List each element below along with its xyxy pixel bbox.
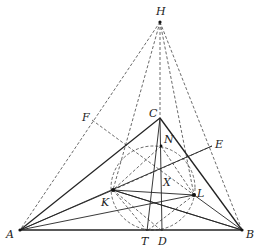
point-b — [240, 228, 243, 231]
dashed-lines-from-h — [20, 22, 242, 230]
point-l — [192, 193, 196, 197]
geometry-diagram: H C F N E X K L A T D B — [0, 0, 259, 252]
point-k — [111, 188, 115, 192]
label-b: B — [245, 228, 254, 241]
label-h: H — [155, 5, 166, 18]
point-h — [158, 20, 161, 23]
label-k: K — [100, 196, 110, 209]
label-t: T — [141, 235, 150, 248]
label-c: C — [149, 107, 158, 120]
point-a — [18, 228, 21, 231]
dashed-perpendiculars — [92, 120, 212, 231]
label-d: D — [157, 235, 167, 248]
label-n: N — [163, 133, 174, 146]
label-f: F — [81, 111, 90, 124]
label-e: E — [214, 138, 223, 151]
label-x: X — [162, 176, 172, 189]
label-a: A — [5, 228, 14, 241]
solid-lines — [20, 118, 242, 231]
label-l: L — [196, 187, 204, 200]
point-n — [160, 145, 163, 148]
